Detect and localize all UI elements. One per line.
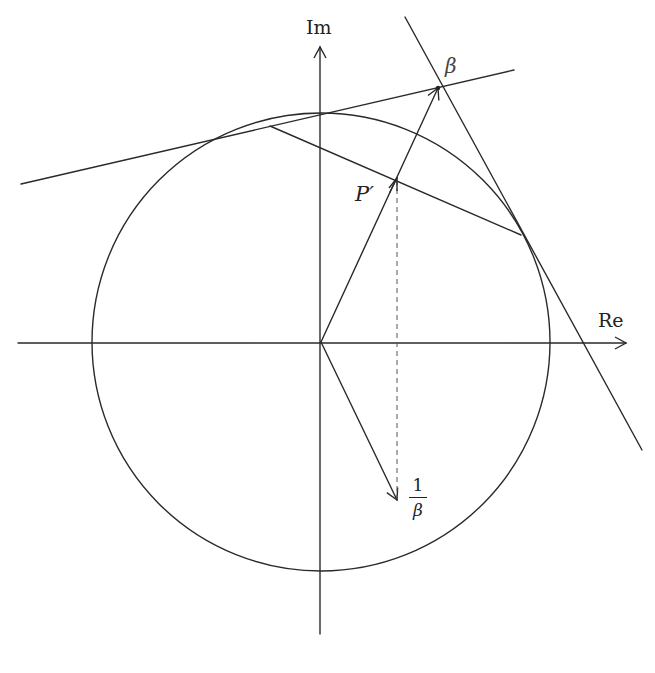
beta-point bbox=[436, 86, 440, 90]
p-prime-label: P′ bbox=[355, 184, 374, 205]
vector-inverse-beta bbox=[321, 342, 397, 500]
vector-beta bbox=[321, 88, 438, 342]
fraction-bar bbox=[409, 497, 427, 498]
unit-circle-diagram: Im Re β P′ 1 β bbox=[0, 0, 655, 673]
inverse-beta-label: 1 β bbox=[409, 475, 427, 520]
inverse-beta-denominator: β bbox=[413, 500, 423, 520]
real-axis-label: Re bbox=[598, 311, 624, 330]
beta-label: β bbox=[445, 56, 457, 76]
tangent-line-upper bbox=[21, 70, 514, 184]
tangent-line-right bbox=[405, 17, 642, 450]
imaginary-axis-label: Im bbox=[306, 18, 332, 37]
diagram-canvas bbox=[0, 0, 655, 673]
inverse-beta-numerator: 1 bbox=[413, 475, 424, 495]
